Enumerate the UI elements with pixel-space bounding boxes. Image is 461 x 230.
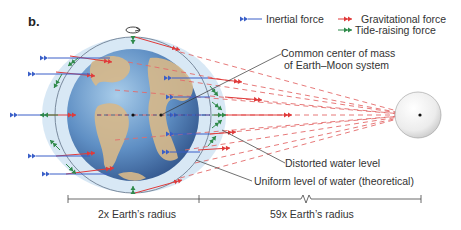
tidal-forces-diagram: b. Inertial force Gravitational force Ti… [0, 0, 461, 230]
moon-center-dot [418, 113, 421, 116]
earth-center-dot [131, 113, 134, 116]
moon [395, 92, 441, 138]
scale-bar [68, 195, 421, 203]
uniform-water-label: Uniform level of water (theoretical) [254, 175, 414, 187]
legend-inertial-label: Inertial force [266, 13, 324, 25]
center-of-mass-label-line2: of Earth–Moon system [284, 59, 389, 71]
uniform-leader [196, 160, 252, 181]
scale-moon-segment-label: 59x Earth’s radius [270, 208, 354, 220]
distorted-water-label: Distorted water level [285, 157, 380, 169]
legend-tide-label: Tide-raising force [355, 24, 436, 36]
rotation-icon [126, 27, 140, 33]
center-of-mass-label-line1: Common center of mass [281, 47, 395, 59]
scale-earth-segment-label: 2x Earth’s radius [98, 208, 176, 220]
panel-label: b. [28, 14, 40, 29]
